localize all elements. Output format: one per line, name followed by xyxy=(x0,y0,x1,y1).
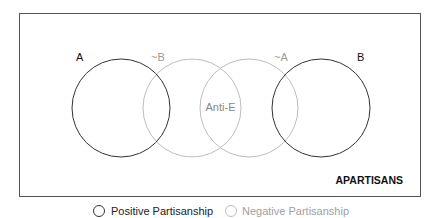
label-b: B xyxy=(357,51,364,63)
label-apartisans: APARTISANS xyxy=(336,174,403,186)
legend-negative-icon xyxy=(226,206,237,217)
label-a: A xyxy=(76,51,84,63)
circle-b xyxy=(272,59,370,157)
circle-a xyxy=(72,59,170,157)
label-anti-e: Anti-E xyxy=(206,101,236,113)
legend-positive-icon xyxy=(94,206,105,217)
label-not-b: ~B xyxy=(151,51,165,63)
legend: Positive Partisanship Negative Partisans… xyxy=(94,205,350,217)
label-not-a: ~A xyxy=(274,51,288,63)
legend-negative-label: Negative Partisanship xyxy=(242,205,349,217)
legend-positive-label: Positive Partisanship xyxy=(111,205,213,217)
partisanship-venn-diagram: A ~B Anti-E ~A B APARTISANS Positive Par… xyxy=(0,0,439,218)
